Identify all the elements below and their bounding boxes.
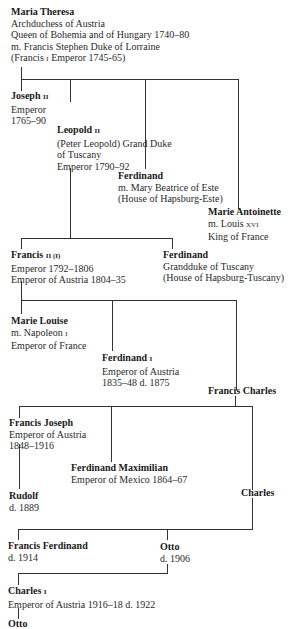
node-name: Charles [241, 487, 274, 499]
node-detail: Emperor of Austria [102, 366, 179, 378]
node-name: Rudolf [9, 490, 39, 502]
node-detail: d. 1906 [160, 553, 190, 565]
node-ferdinand-tuscany: Ferdinand Grandduke of Tuscany (House of… [163, 249, 284, 284]
text: Joseph [11, 90, 43, 101]
node-detail: (House of Hapsburg-Este) [118, 193, 223, 205]
node-francis-charles: Francis Charles [208, 385, 276, 397]
node-ferdinand-este: Ferdinand m. Mary Beatrice of Este (Hous… [118, 170, 223, 205]
node-detail: (House of Hapsburg-Tuscany) [163, 272, 284, 284]
node-name: Francis Joseph [9, 417, 86, 429]
node-name: Maria Theresa [11, 6, 189, 18]
connector-line [21, 79, 239, 80]
node-detail: (Peter Leopold) Grand Duke [57, 138, 172, 150]
node-detail: King of France [208, 231, 281, 243]
node-charles: Charles [241, 487, 274, 499]
node-name: Ferdinand I [102, 352, 179, 366]
node-detail: m. Louis XVI [208, 218, 281, 232]
node-detail: Emperor of Austria [9, 429, 86, 441]
node-detail: m. Francis Stephen Duke of Lorraine [11, 41, 189, 53]
connector-line [18, 529, 19, 540]
text: Francis [11, 249, 46, 260]
node-name: Leopold II [57, 124, 172, 138]
node-detail: Emperor of Austria 1916–18 d. 1922 [8, 599, 155, 611]
regnal-number: II [43, 93, 48, 101]
node-detail: Queen of Bohemia and of Hungary 1740–80 [11, 29, 189, 41]
node-detail: 1835–48 d. 1875 [102, 377, 179, 389]
connector-line [19, 406, 253, 407]
node-ferdinand-i: Ferdinand I Emperor of Austria 1835–48 d… [102, 352, 179, 389]
node-maria-theresa: Maria Theresa Archduchess of Austria Que… [11, 6, 189, 66]
node-detail: m. Napoleon I [11, 327, 87, 341]
node-name: Ferdinand [163, 249, 284, 261]
node-detail: (Francis I Emperor 1745-65) [11, 52, 189, 66]
node-name: Otto [8, 618, 27, 629]
node-detail: Emperor of Mexico 1864–67 [71, 474, 187, 486]
connector-line [238, 79, 239, 209]
node-ferdinand-maximilian: Ferdinand Maximilian Emperor of Mexico 1… [71, 462, 187, 485]
node-charles-i: Charles I Emperor of Austria 1916–18 d. … [8, 585, 155, 610]
text: m. Louis [208, 218, 246, 229]
node-name: Ferdinand [118, 170, 223, 182]
node-name: Marie Antoinette [208, 206, 281, 218]
node-detail: d. 1889 [9, 502, 39, 514]
node-francis-joseph: Francis Joseph Emperor of Austria 1848–1… [9, 417, 86, 452]
node-name: Francis II (I) [11, 249, 126, 263]
text: Charles [8, 585, 44, 596]
node-joseph-ii: Joseph II Emperor 1765–90 [11, 90, 48, 127]
regnal-number: I [65, 330, 67, 338]
connector-line [236, 300, 237, 390]
connector-line [18, 573, 168, 574]
connector-line [252, 498, 253, 530]
node-name: Ferdinand Maximilian [71, 462, 187, 474]
node-detail: 1765–90 [11, 115, 48, 127]
regnal-number: II [95, 127, 100, 135]
text: Leopold [57, 124, 95, 135]
node-rudolf: Rudolf d. 1889 [9, 490, 39, 513]
connector-line [18, 573, 19, 585]
node-detail: d. 1914 [8, 552, 88, 564]
node-francis-ferdinand: Francis Ferdinand d. 1914 [8, 540, 88, 563]
node-detail: Emperor of Austria 1804–35 [11, 274, 126, 286]
text: (Francis [11, 52, 46, 63]
connector-line [21, 300, 237, 301]
node-detail: Emperor 1792–1806 [11, 263, 126, 275]
connector-line [111, 406, 112, 462]
node-detail: Emperor [11, 104, 48, 116]
node-otto: Otto [8, 618, 27, 629]
node-detail: Archduchess of Austria [11, 18, 189, 30]
node-leopold-ii: Leopold II (Peter Leopold) Grand Duke of… [57, 124, 172, 172]
regnal-number: I [150, 355, 153, 363]
node-francis-ii: Francis II (I) Emperor 1792–1806 Emperor… [11, 249, 126, 286]
connector-line [18, 529, 253, 530]
node-detail: Emperor of France [11, 340, 87, 352]
node-name: Joseph II [11, 90, 48, 104]
node-name: Otto [160, 541, 190, 553]
node-detail: Grandduke of Tuscany [163, 261, 284, 273]
node-marie-antoinette: Marie Antoinette m. Louis XVI King of Fr… [208, 206, 281, 243]
node-detail: m. Mary Beatrice of Este [118, 182, 223, 194]
text: Ferdinand [102, 352, 150, 363]
text: m. Napoleon [11, 327, 65, 338]
node-detail: of Tuscany [57, 149, 172, 161]
node-marie-louise: Marie Louise m. Napoleon I Emperor of Fr… [11, 315, 87, 352]
node-name: Francis Ferdinand [8, 540, 88, 552]
regnal-number: I [44, 588, 47, 596]
connector-line [167, 529, 168, 540]
connector-line [172, 238, 173, 249]
text: Emperor 1745-65) [49, 52, 126, 63]
node-name: Charles I [8, 585, 155, 599]
connector-line [21, 238, 22, 249]
node-otto-1906: Otto d. 1906 [160, 541, 190, 564]
node-name: Francis Charles [208, 385, 276, 397]
connector-line [70, 168, 71, 239]
node-detail: 1848–1916 [9, 440, 86, 452]
connector-line [112, 300, 113, 351]
node-name: Marie Louise [11, 315, 87, 327]
regnal-number: II (I) [46, 252, 61, 260]
connector-line [21, 238, 173, 239]
connector-line [21, 281, 22, 314]
connector-line [252, 406, 253, 490]
regnal-number: XVI [246, 221, 258, 229]
connector-line [70, 79, 71, 102]
